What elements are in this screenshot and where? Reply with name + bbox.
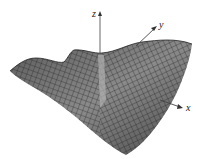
surface (10, 40, 192, 155)
z-axis: z (91, 8, 102, 54)
z-axis-label: z (91, 8, 96, 19)
surface-plot: z y x (0, 0, 202, 159)
y-axis-label: y (158, 19, 164, 30)
x-axis-label: x (185, 102, 191, 113)
